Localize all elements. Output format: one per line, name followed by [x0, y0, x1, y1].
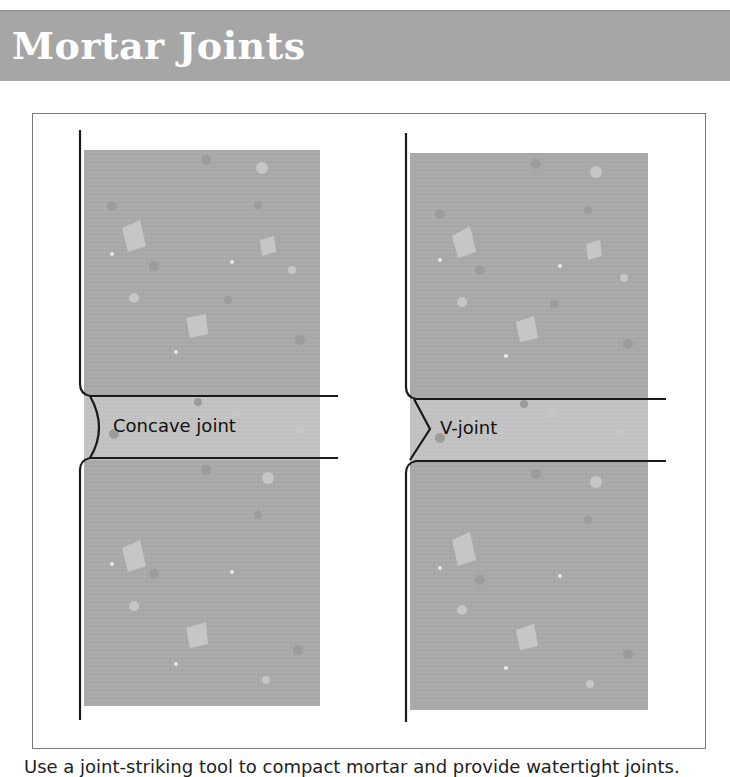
- lower-brick: [410, 462, 648, 710]
- concave-joint-label: Concave joint: [113, 415, 236, 436]
- caption: Use a joint-striking tool to compact mor…: [24, 756, 680, 777]
- upper-brick: [410, 153, 648, 399]
- v-joint-label: V-joint: [440, 417, 497, 438]
- upper-brick: [84, 150, 320, 396]
- lower-brick: [84, 460, 320, 706]
